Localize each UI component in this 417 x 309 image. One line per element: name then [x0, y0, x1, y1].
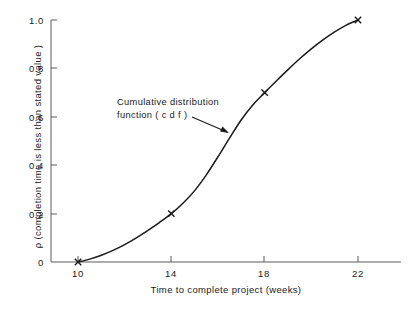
cdf-callout-line1: Cumulative distribution: [117, 96, 219, 109]
cdf-chart-figure: 1.0 0.8 0.6 0.4 0.2 0 10 14 18 22 ρ (com…: [0, 0, 417, 309]
x-tick-label-10: 10: [72, 268, 84, 279]
cdf-data-markers: [75, 17, 361, 265]
chart-plot-area: [0, 0, 417, 309]
x-tick-label-22: 22: [352, 268, 364, 279]
cdf-marker-18: [261, 89, 267, 95]
cdf-callout-label: Cumulative distribution function ( c d f…: [117, 96, 219, 121]
y-axis-title: ρ (completion time is less than stated v…: [32, 22, 43, 272]
x-axis-title: Time to complete project (weeks): [51, 284, 401, 295]
cdf-callout-line2: function ( c d f ): [117, 109, 219, 122]
cdf-marker-22: [355, 17, 361, 23]
x-tick-label-18: 18: [258, 268, 270, 279]
x-tick-label-14: 14: [165, 268, 177, 279]
cdf-curve-line: [78, 20, 358, 262]
cdf-marker-14: [168, 210, 174, 216]
